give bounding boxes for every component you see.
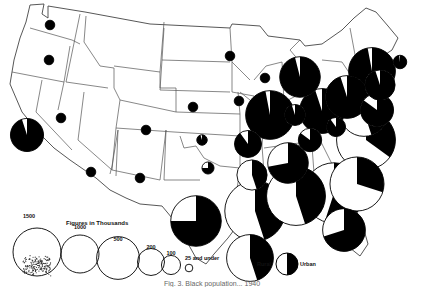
- legend-texture-dot: [44, 263, 45, 264]
- legend-texture-dot: [26, 269, 27, 270]
- legend-texture-dot: [50, 275, 51, 276]
- legend-texture-dot: [31, 266, 32, 267]
- legend-texture-dot: [48, 274, 49, 275]
- legend-texture-dot: [24, 271, 25, 272]
- legend-texture-dot: [34, 261, 35, 262]
- pie-kentucky: [298, 128, 321, 151]
- colorado-urban-slice: [141, 125, 151, 135]
- legend-texture-dot: [31, 272, 32, 273]
- legend-texture-dot: [44, 258, 45, 259]
- pie-massachusetts: [393, 55, 407, 69]
- minnesota-urban-slice: [225, 51, 235, 61]
- state-pie-symbols: [10, 20, 406, 281]
- legend-texture-dot: [32, 274, 33, 275]
- pie-oregon: [44, 55, 54, 65]
- legend-texture-dot: [24, 262, 25, 263]
- legend-texture-dot: [31, 259, 32, 260]
- legend-texture-dot: [28, 271, 29, 272]
- legend-texture-dot: [31, 263, 32, 264]
- legend-texture-dot: [23, 260, 24, 261]
- legend-texture-dot: [32, 264, 33, 265]
- legend-texture-dot: [49, 259, 50, 260]
- legend-texture-dot: [38, 261, 39, 262]
- pie-washington: [45, 20, 55, 30]
- legend-texture-dot: [50, 262, 51, 263]
- pie-nebraska: [188, 102, 198, 112]
- oregon-urban-slice: [44, 55, 54, 65]
- legend-texture-dot: [50, 263, 51, 264]
- legend-texture-dot: [40, 258, 41, 259]
- legend-texture-dot: [43, 263, 44, 264]
- legend-texture-dot: [35, 264, 36, 265]
- legend-texture-dot: [27, 268, 28, 269]
- legend-texture-dot: [38, 270, 39, 271]
- pie-michigan: [280, 57, 321, 98]
- legend-texture-dot: [31, 267, 32, 268]
- legend-texture-dot: [34, 268, 35, 269]
- legend-texture-dot: [29, 258, 30, 259]
- legend-texture-dot: [38, 256, 39, 257]
- pie-new-mexico: [135, 173, 145, 183]
- legend-texture-dot: [41, 263, 42, 264]
- legend-texture-dot: [32, 268, 33, 269]
- figure-caption: Fig. 3. Black population... 1940: [164, 280, 260, 287]
- legend-texture-dot: [33, 267, 34, 268]
- legend-size-label: 100: [166, 250, 175, 256]
- legend-texture-dot: [34, 266, 35, 267]
- legend-texture-dot: [28, 274, 29, 275]
- legend-size-label: 500: [113, 236, 122, 242]
- legend-texture-dot: [40, 269, 41, 270]
- legend-texture-dot: [38, 267, 39, 268]
- legend-texture-dot: [45, 259, 46, 260]
- legend-circle-200: [137, 248, 164, 275]
- pie-california: [10, 118, 43, 151]
- pie-colorado: [141, 125, 151, 135]
- legend-texture-dot: [35, 270, 36, 271]
- legend-texture-dot: [35, 261, 36, 262]
- legend-texture-dot: [35, 259, 36, 260]
- legend-texture-dot: [25, 261, 26, 262]
- legend-texture-dot: [41, 260, 42, 261]
- legend-texture-dot: [47, 263, 48, 264]
- legend-texture-dot: [32, 271, 33, 272]
- legend-texture-dot: [24, 270, 25, 271]
- legend-texture-dot: [37, 269, 38, 270]
- legend-texture-dot: [48, 270, 49, 271]
- legend-texture-dot: [44, 268, 45, 269]
- legend-texture-dot: [50, 268, 51, 269]
- legend-texture-dot: [24, 258, 25, 259]
- legend-texture-dot: [49, 269, 50, 270]
- nebraska-urban-slice: [188, 102, 198, 112]
- pie-texas: [171, 196, 222, 247]
- legend-texture-dot: [38, 263, 39, 264]
- legend-texture-dot: [27, 266, 28, 267]
- legend-texture-dot: [45, 266, 46, 267]
- legend-texture-dot: [45, 263, 46, 264]
- legend-texture-dot: [22, 271, 23, 272]
- legend-texture-dot: [25, 259, 26, 260]
- map-figure: Figures in Thousands 1500100050020010025…: [0, 0, 424, 287]
- legend-texture-dot: [26, 272, 27, 273]
- legend-texture-dot: [41, 269, 42, 270]
- legend-texture-dot: [25, 268, 26, 269]
- legend-texture-dot: [32, 260, 33, 261]
- legend-texture-dot: [30, 272, 31, 273]
- legend-texture-dot: [28, 270, 29, 271]
- legend-texture-dot: [45, 256, 46, 257]
- new-jersey-urban-slice: [365, 70, 395, 100]
- legend-circle-1000: [61, 235, 99, 273]
- legend-texture-dot: [24, 273, 25, 274]
- key-urban-half: [287, 253, 298, 275]
- legend-texture-dot: [36, 272, 37, 273]
- california-urban-slice: [10, 118, 43, 151]
- legend-circle-1500: [13, 228, 61, 276]
- legend-texture-dot: [23, 268, 24, 269]
- pie-oklahoma: [202, 162, 214, 174]
- new-mexico-urban-slice: [135, 173, 145, 183]
- legend-texture-dot: [50, 271, 51, 272]
- arizona-urban-slice: [86, 167, 96, 177]
- legend-rural-label: Rural: [257, 261, 272, 267]
- legend-texture-dot: [35, 269, 36, 270]
- legend-texture-dot: [49, 264, 50, 265]
- legend-texture-dot: [39, 265, 40, 266]
